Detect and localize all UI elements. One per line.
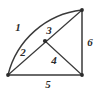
- segment-label-2: 2: [20, 47, 26, 58]
- segment-label-5: 5: [45, 79, 51, 90]
- geometric-figure: 1 2 3 4 5 6: [0, 0, 98, 92]
- vertex-dot-bottom-right: [80, 73, 84, 77]
- segment-label-1: 1: [15, 22, 21, 33]
- segment-label-3: 3: [46, 25, 52, 36]
- segment-label-4: 4: [51, 55, 57, 66]
- segment-label-6: 6: [87, 37, 93, 48]
- vertex-dot-bottom-left: [6, 73, 10, 77]
- midpoint-dot: [43, 39, 47, 43]
- vertex-dot-top-right: [80, 8, 84, 12]
